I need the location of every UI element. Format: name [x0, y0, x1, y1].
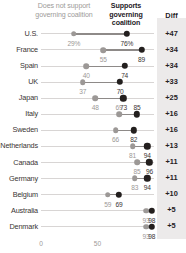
row-connector: [103, 49, 141, 50]
row-label-netherlands: Netherlands: [0, 141, 38, 150]
row-track: 29%76%: [41, 33, 154, 34]
x-axis-tick: 0: [39, 240, 43, 247]
diff-value: +16: [157, 125, 186, 134]
x-axis: 050: [41, 240, 154, 252]
dot-supports: [138, 47, 144, 53]
chart-row: Belgium5969+10: [0, 189, 186, 205]
dot-supports: [117, 79, 123, 85]
diff-value: +5: [157, 221, 186, 230]
dot-supports: [149, 223, 155, 229]
dot-supports: [134, 111, 140, 117]
dot-does-not-support: [100, 47, 106, 53]
diff-value: +13: [157, 141, 186, 150]
diff-column-header: Diff: [157, 11, 186, 20]
diff-value: +16: [157, 109, 186, 118]
row-track: 6985: [41, 114, 154, 115]
diff-value: +11: [157, 157, 186, 166]
row-label-denmark: Denmark: [0, 222, 38, 231]
chart-legend: Does not support governing coalition Sup…: [0, 2, 157, 28]
row-label-uk: UK: [0, 77, 38, 86]
dot-does-not-support: [83, 63, 89, 69]
row-label-spain: Spain: [0, 61, 38, 70]
row-label-u-s: U.S.: [0, 29, 38, 38]
row-axis-line: [41, 210, 154, 211]
row-track: 4873: [41, 98, 154, 99]
dot-supports: [144, 175, 150, 181]
chart-row: Spain4074+34: [0, 60, 186, 76]
legend-label-does-not-support: Does not support governing coalition: [33, 2, 95, 19]
value-label-does-not-support: 69: [116, 104, 123, 111]
dot-does-not-support: [80, 79, 86, 85]
diff-value: +11: [157, 173, 186, 182]
row-track: 3770: [41, 82, 154, 83]
row-track: 6682: [41, 130, 154, 131]
dot-does-not-support: [71, 31, 77, 37]
chart-row: Denmark9398+5: [0, 221, 186, 237]
row-track: 4074: [41, 66, 154, 67]
dot-does-not-support: [113, 127, 119, 133]
row-connector: [86, 66, 124, 67]
value-label-supports: 85: [134, 104, 141, 111]
chart-row: Germany8394+11: [0, 173, 186, 189]
diff-value: +33: [157, 77, 186, 86]
row-track: 9398: [41, 210, 154, 211]
chart-rows: U.S.29%76%+47France5589+34Spain4074+34UK…: [0, 28, 186, 237]
dot-supports: [130, 127, 136, 133]
dot-does-not-support: [116, 111, 122, 117]
chart-row: Australia9398+5: [0, 205, 186, 221]
dot-does-not-support: [130, 144, 136, 150]
row-axis-line: [41, 226, 154, 227]
row-track: 8394: [41, 178, 154, 179]
diff-value: +34: [157, 61, 186, 70]
row-track: 5969: [41, 194, 154, 195]
chart-row: Italy6985+16: [0, 108, 186, 124]
chart-row: Sweden6682+16: [0, 124, 186, 140]
dot-supports: [149, 207, 155, 213]
x-axis-tick: 50: [94, 240, 101, 247]
row-axis-line: [41, 194, 154, 195]
row-connector: [83, 82, 120, 83]
chart-row: France5589+34: [0, 44, 186, 60]
row-label-australia: Australia: [0, 206, 38, 215]
row-label-italy: Italy: [0, 109, 38, 118]
chart-row: Canada8596+11: [0, 157, 186, 173]
dot-does-not-support: [134, 160, 140, 166]
row-connector: [95, 98, 123, 99]
row-label-sweden: Sweden: [0, 125, 38, 134]
chart-row: Netherlands8194+13: [0, 140, 186, 156]
diff-value: +10: [157, 189, 186, 198]
row-label-belgium: Belgium: [0, 190, 38, 199]
dot-does-not-support: [92, 95, 98, 101]
row-track: 8596: [41, 162, 154, 163]
dot-supports: [121, 63, 127, 69]
chart-row: U.S.29%76%+47: [0, 28, 186, 44]
row-label-japan: Japan: [0, 93, 38, 102]
diff-value: +5: [157, 205, 186, 214]
dot-does-not-support: [132, 176, 138, 182]
dot-plot-chart: Does not support governing coalition Sup…: [0, 0, 186, 253]
diff-value: +25: [157, 93, 186, 102]
row-track: 9398: [41, 226, 154, 227]
legend-label-supports: Supports governing coalition: [97, 2, 155, 28]
row-track: 5589: [41, 49, 154, 50]
dot-supports: [120, 95, 126, 101]
row-label-france: France: [0, 45, 38, 54]
value-label-supports: 98: [148, 233, 155, 240]
dot-supports: [146, 159, 152, 165]
row-track: 8194: [41, 146, 154, 147]
dot-does-not-support: [105, 192, 111, 198]
row-label-germany: Germany: [0, 174, 38, 183]
dot-supports: [144, 143, 150, 149]
diff-value: +34: [157, 45, 186, 54]
row-connector: [74, 33, 127, 34]
row-label-canada: Canada: [0, 158, 38, 167]
dot-supports: [116, 191, 122, 197]
diff-value: +47: [157, 29, 186, 38]
dot-supports: [124, 31, 130, 37]
chart-row: Japan4873+25: [0, 92, 186, 108]
row-axis-line: [41, 130, 154, 131]
chart-row: UK3770+33: [0, 76, 186, 92]
